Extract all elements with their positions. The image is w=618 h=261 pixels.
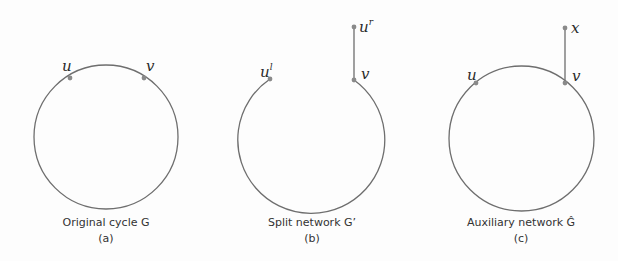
sublabel-c: (c) (514, 232, 529, 245)
panel-a-original-cycle: u v Original cycle G (a) (34, 57, 178, 245)
cycle-a (34, 65, 178, 209)
caption-c: Auxiliary network Ĝ (467, 216, 575, 229)
vertex-ur-b (352, 25, 357, 30)
vertex-v-c (563, 81, 568, 86)
label-v-b: v (361, 65, 370, 83)
sublabel-a: (a) (98, 232, 113, 245)
caption-b: Split network G’ (268, 216, 356, 229)
cycle-c (449, 66, 594, 211)
label-v-a: v (146, 57, 155, 75)
label-ul-base: u (260, 63, 270, 81)
panel-b-split-network: ul v ur Split network G’ (b) (238, 17, 385, 245)
vertex-v-a (142, 76, 147, 81)
label-v-c: v (572, 67, 581, 85)
diagram-svg: u v Original cycle G (a) ul v ur Split n… (0, 0, 618, 261)
caption-a: Original cycle G (63, 216, 150, 229)
label-x-c: x (571, 19, 580, 37)
label-ur-sup: r (369, 17, 374, 27)
figure-canvas: u v Original cycle G (a) ul v ur Split n… (0, 0, 618, 261)
label-u-c: u (467, 66, 477, 84)
path-b (238, 79, 385, 213)
label-ur-b: ur (359, 17, 374, 36)
vertex-v-b (352, 78, 357, 83)
panel-c-auxiliary-network: u v x Auxiliary network Ĝ (c) (449, 19, 594, 245)
sublabel-b: (b) (304, 232, 320, 245)
vertex-u-a (68, 76, 73, 81)
label-u-a: u (62, 57, 72, 75)
vertex-x-c (563, 26, 568, 31)
label-ur-base: u (359, 18, 369, 36)
label-ul-sup: l (270, 62, 273, 72)
